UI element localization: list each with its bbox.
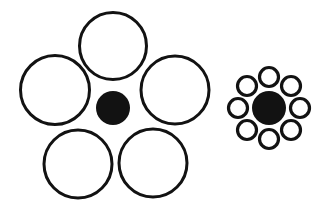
- left-target: [96, 91, 130, 125]
- right-target: [252, 91, 286, 125]
- ebbinghaus-illusion-figure: [0, 0, 329, 212]
- illusion-canvas: [0, 0, 329, 212]
